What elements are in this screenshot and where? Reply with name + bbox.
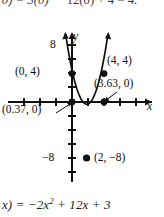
label-root-left: (0.37, 0) bbox=[2, 103, 41, 115]
bottom-equation-head: x) = −2x bbox=[2, 197, 49, 212]
x-axis-label: x bbox=[147, 100, 152, 112]
curve-right-arrowhead bbox=[105, 32, 111, 39]
label-root-right: (3.63, 0) bbox=[94, 77, 133, 89]
label-vertex: (2, −8) bbox=[94, 151, 125, 163]
y-axis-label: y bbox=[73, 30, 78, 42]
point-root-right bbox=[101, 99, 108, 106]
point-root-left bbox=[69, 99, 76, 106]
y-tick-label-8: 8 bbox=[50, 38, 56, 50]
y-tick-label-neg8: −8 bbox=[42, 151, 54, 163]
label-y-intercept: (0, 4) bbox=[15, 65, 40, 77]
point-symmetric bbox=[101, 70, 108, 77]
point-y-intercept bbox=[69, 70, 76, 77]
figure-container: f(0) = 3(0)2 − 12(0) + 4 = 4. bbox=[0, 0, 164, 217]
label-symmetric-point: (4, 4) bbox=[107, 54, 132, 66]
bottom-equation: x) = −2x2 + 12x + 3 bbox=[2, 197, 111, 212]
top-equation-tail: − 12(0) + 4 = 4. bbox=[53, 0, 137, 7]
leader-root-left bbox=[56, 104, 70, 113]
top-equation-head: f(0) = 3(0) bbox=[0, 0, 49, 7]
top-equation: f(0) = 3(0)2 − 12(0) + 4 = 4. bbox=[0, 0, 137, 7]
bottom-equation-tail: + 12x + 3 bbox=[54, 197, 111, 212]
point-vertex bbox=[83, 154, 90, 161]
curve-left-arrowhead bbox=[62, 32, 68, 39]
axis-arrowheads bbox=[69, 32, 152, 105]
graph-plot: y x 8 −8 (0, 4) (4, 4) (3.63, 0) (0.37, … bbox=[0, 14, 164, 196]
